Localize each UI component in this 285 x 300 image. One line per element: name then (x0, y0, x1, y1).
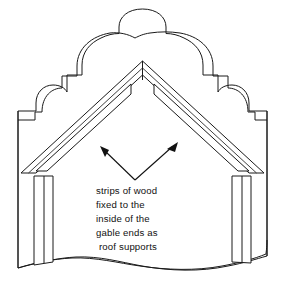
caption-line-1: strips of wood (96, 185, 157, 196)
left-corner-post (34, 176, 53, 265)
caption-block: strips of wood fixed to the inside of th… (96, 185, 158, 252)
right-corner-post (232, 176, 251, 263)
caption-line-3: inside of the (96, 213, 150, 224)
caption-line-4: gable ends as (96, 227, 158, 238)
caption-line-2: fixed to the (96, 199, 145, 210)
caption-line-5: roof supports (99, 241, 157, 252)
gable-diagram-svg: strips of wood fixed to the inside of th… (0, 0, 285, 300)
figure-container: strips of wood fixed to the inside of th… (0, 0, 285, 300)
